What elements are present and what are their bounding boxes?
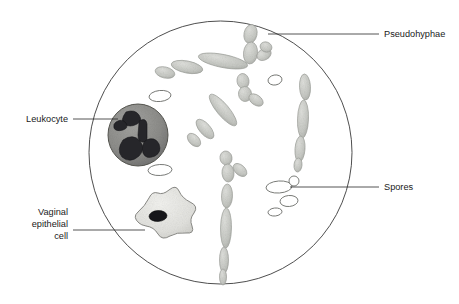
spore xyxy=(289,176,299,186)
label-leukocyte: Leukocyte xyxy=(26,114,68,124)
label-vaginal-epithelial-cell-line3: cell xyxy=(54,231,68,241)
label-vaginal-epithelial-cell-line2: epithelial xyxy=(32,219,68,229)
leukocyte xyxy=(108,104,168,166)
label-spores: Spores xyxy=(384,182,414,192)
label-pseudohyphae: Pseudohyphae xyxy=(384,29,445,39)
label-vaginal-epithelial-cell: Vaginal epithelial cell xyxy=(32,207,68,241)
microscopy-diagram: Pseudohyphae Spores Leukocyte Vaginal ep… xyxy=(0,0,459,304)
label-vaginal-epithelial-cell-line1: Vaginal xyxy=(38,207,68,217)
